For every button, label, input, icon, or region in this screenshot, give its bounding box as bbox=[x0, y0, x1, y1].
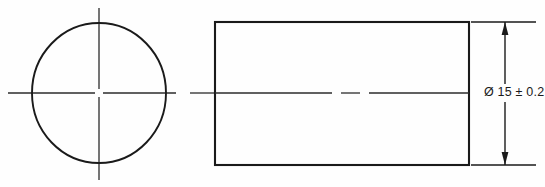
side-view-group bbox=[215, 22, 469, 165]
end-view-group bbox=[8, 8, 176, 180]
dimension-arrowhead-down-icon bbox=[502, 152, 509, 165]
diameter-dimension-label: Ø 15 ± 0.2 bbox=[483, 86, 545, 99]
technical-drawing-sheet: Ø 15 ± 0.2 bbox=[0, 0, 545, 187]
dimension-arrowhead-up-icon bbox=[502, 22, 509, 35]
drawing-canvas bbox=[0, 0, 545, 187]
